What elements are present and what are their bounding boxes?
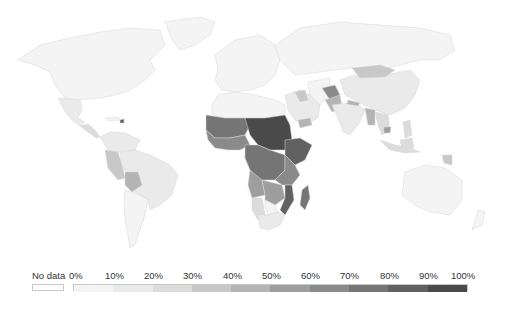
region-papua-new-guinea[interactable] (442, 155, 452, 165)
legend-tick-40: 40% (223, 270, 242, 281)
region-mexico[interactable] (58, 98, 85, 126)
legend-tick-30: 30% (183, 270, 202, 281)
region-new-zealand[interactable] (472, 210, 485, 230)
region-madagascar[interactable] (300, 185, 310, 210)
region-cambodia[interactable] (384, 127, 391, 133)
legend-no-data-label: No data (32, 270, 65, 281)
region-colombia-venezuela[interactable] (100, 132, 140, 152)
region-borneo[interactable] (400, 138, 414, 148)
region-haiti[interactable] (120, 119, 124, 123)
legend-tick-50: 50% (262, 270, 281, 281)
region-greenland[interactable] (165, 17, 215, 50)
world-choropleth-map (0, 0, 511, 270)
legend-color-bar (73, 284, 468, 291)
region-philippines[interactable] (403, 120, 412, 138)
legend-tick-10: 10% (105, 270, 124, 281)
region-europe[interactable] (215, 35, 280, 92)
region-australia[interactable] (402, 165, 462, 215)
legend-bin-40-50 (231, 285, 270, 292)
region-north-africa[interactable] (212, 92, 285, 118)
legend-tick-100: 100% (451, 270, 475, 281)
region-sahel-west[interactable] (206, 115, 250, 138)
region-india[interactable] (332, 102, 365, 135)
region-yemen[interactable] (298, 118, 312, 128)
region-central-america[interactable] (80, 124, 100, 138)
legend-tick-90: 90% (419, 270, 438, 281)
legend-tick-80: 80% (380, 270, 399, 281)
legend-bin-90-100 (428, 285, 467, 292)
legend-tick-60: 60% (301, 270, 320, 281)
region-cuba[interactable] (105, 117, 120, 121)
legend-bin-30-40 (192, 285, 231, 292)
legend-bin-10-20 (113, 285, 152, 292)
legend-bin-70-80 (349, 285, 388, 292)
legend-tick-0: 0% (69, 270, 83, 281)
legend-bin-50-60 (270, 285, 309, 292)
legend-bin-80-90 (388, 285, 427, 292)
legend-bin-60-70 (310, 285, 349, 292)
legend-bin-20-30 (153, 285, 192, 292)
region-myanmar[interactable] (365, 108, 375, 125)
region-indonesia[interactable] (380, 140, 420, 153)
legend-tick-70: 70% (340, 270, 359, 281)
legend-tick-20: 20% (144, 270, 163, 281)
region-argentina-chile[interactable] (124, 190, 148, 248)
legend-no-data-swatch (32, 284, 64, 291)
legend-bin-0-10 (74, 285, 113, 292)
region-north-america[interactable] (18, 28, 165, 100)
